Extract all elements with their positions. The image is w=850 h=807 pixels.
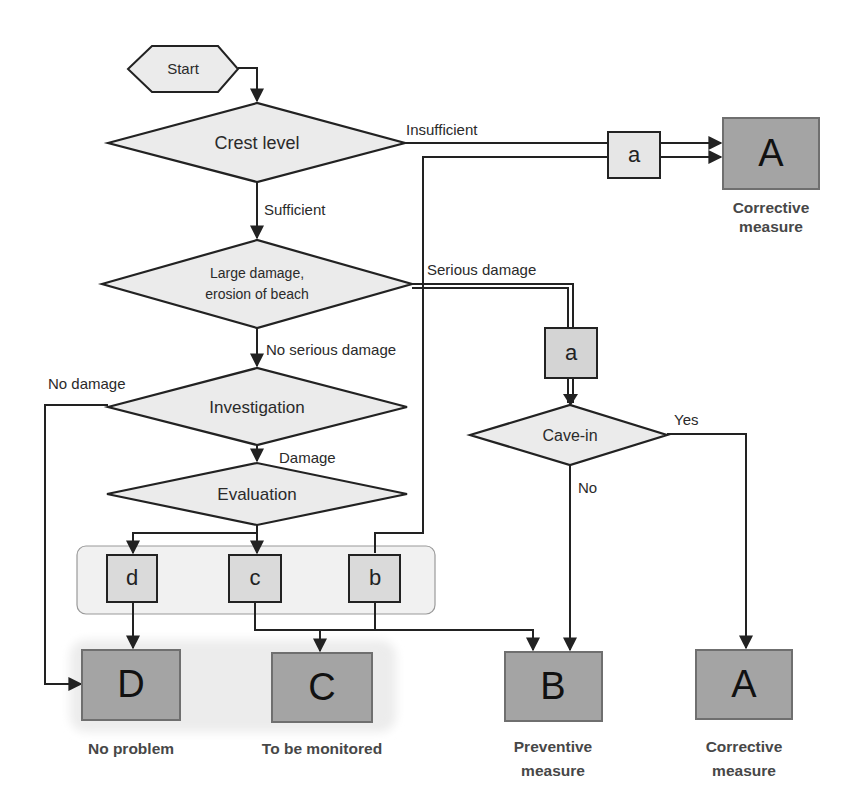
edge-label-sufficient: Sufficient <box>264 201 326 218</box>
outcome-B: B Preventive measure <box>505 652 602 779</box>
edge-serious-damage-inner <box>412 288 568 328</box>
decision-evaluation: Evaluation <box>107 463 407 525</box>
outcome-C-letter: C <box>308 666 335 708</box>
evaluation-label: Evaluation <box>217 485 296 504</box>
outcome-A-top-caption-2: measure <box>739 218 803 235</box>
grade-a-mid-label: a <box>565 340 578 365</box>
outcome-B-letter: B <box>540 665 565 707</box>
decision-large-damage: Large damage, erosion of beach <box>102 240 412 328</box>
grade-box-b: b <box>349 555 400 602</box>
outcome-A-bottom-caption-1: Corrective <box>706 738 783 755</box>
edge-start-to-crest <box>238 68 257 101</box>
grade-box-c: c <box>229 555 281 602</box>
outcome-A-bottom: A Corrective measure <box>696 650 792 779</box>
outcome-A-bottom-caption-2: measure <box>712 762 776 779</box>
grade-c-label: c <box>250 565 261 590</box>
grade-box-a-top: a <box>608 132 660 178</box>
large-damage-label-line1: Large damage, <box>210 265 304 281</box>
grade-box-d: d <box>107 555 157 602</box>
outcome-B-caption-1: Preventive <box>514 738 593 755</box>
grade-b-label: b <box>369 565 381 590</box>
edge-serious-damage-outer <box>412 284 573 328</box>
outcome-A-top-caption-1: Corrective <box>733 199 810 216</box>
decision-investigation: Investigation <box>108 368 407 445</box>
outcome-B-caption-2: measure <box>521 762 585 779</box>
edge-label-damage: Damage <box>279 449 336 466</box>
edge-label-no-serious-damage: No serious damage <box>266 341 396 358</box>
flowchart: Start Crest level Large damage, erosion … <box>0 0 850 807</box>
start-label: Start <box>167 60 200 77</box>
cave-in-label: Cave-in <box>542 427 597 444</box>
edge-yes <box>667 434 746 648</box>
edge-label-no: No <box>578 479 597 496</box>
outcome-D-caption: No problem <box>88 740 174 757</box>
crest-level-label: Crest level <box>214 133 299 153</box>
outcome-D-letter: D <box>117 663 144 705</box>
outcome-A-top: A Corrective measure <box>723 118 819 235</box>
decision-crest-level: Crest level <box>108 103 405 182</box>
grade-a-top-label: a <box>628 142 641 167</box>
large-damage-label-line2: erosion of beach <box>205 286 309 302</box>
decision-cave-in: Cave-in <box>470 405 667 465</box>
edge-label-insufficient: Insufficient <box>406 121 478 138</box>
outcome-C: C To be monitored <box>262 653 382 757</box>
edge-label-yes: Yes <box>674 411 698 428</box>
grade-box-a-mid: a <box>545 328 597 378</box>
outcome-A-top-letter: A <box>758 132 784 174</box>
start-node: Start <box>128 46 238 92</box>
outcome-A-bottom-letter: A <box>731 663 757 705</box>
outcome-C-caption: To be monitored <box>262 740 382 757</box>
outcome-D: D No problem <box>82 650 180 757</box>
grade-d-label: d <box>126 565 138 590</box>
investigation-label: Investigation <box>209 398 304 417</box>
edge-label-no-damage: No damage <box>48 375 126 392</box>
edge-label-serious-damage: Serious damage <box>427 261 536 278</box>
